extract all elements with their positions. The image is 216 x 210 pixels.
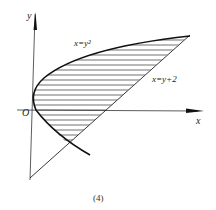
x-axis-arrow-icon — [186, 109, 204, 114]
x-axis — [17, 109, 204, 114]
x-axis-label: x — [195, 115, 201, 126]
y-axis-label: y — [26, 10, 32, 21]
hatched-region — [20, 40, 200, 140]
line-curve — [30, 35, 190, 178]
line-label: x=y+2 — [151, 74, 177, 84]
parabola-label: x=y² — [73, 38, 91, 48]
origin-label: O — [22, 107, 29, 118]
figure-caption: (4) — [93, 193, 104, 203]
y-axis-arrow-icon — [34, 12, 38, 30]
diagram-canvas: y x O x=y² x=y+2 (4) — [0, 0, 216, 210]
parabola-curve — [33, 36, 190, 155]
